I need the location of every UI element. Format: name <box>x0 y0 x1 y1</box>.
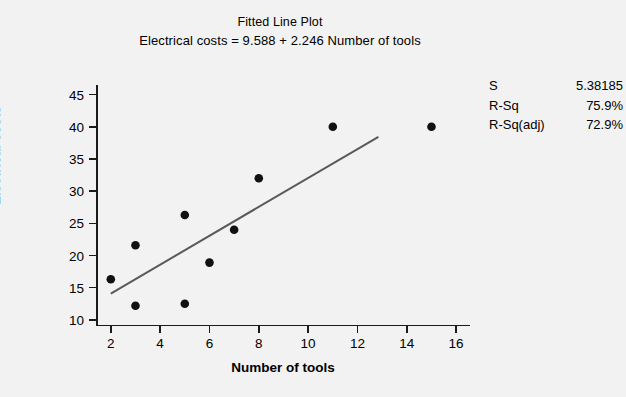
data-point-marker <box>181 211 190 220</box>
stat-row-s: S 5.38185 <box>489 76 623 96</box>
y-axis-title: Electrical costs <box>0 106 3 205</box>
statistics-box: S 5.38185 R-Sq 75.9% R-Sq(adj) 72.9% <box>489 76 623 135</box>
x-tick-label: 16 <box>441 336 471 351</box>
y-tick-label: 40 <box>54 119 84 134</box>
data-point-marker <box>107 275 116 284</box>
y-tick-mark <box>89 223 96 225</box>
y-tick-label: 15 <box>54 280 84 295</box>
y-tick-label: 30 <box>54 184 84 199</box>
y-tick-label: 25 <box>54 216 84 231</box>
y-tick-label: 45 <box>54 87 84 102</box>
x-tick-label: 10 <box>293 336 323 351</box>
y-tick-label: 10 <box>54 312 84 327</box>
x-axis-title: Number of tools <box>96 360 470 375</box>
y-tick-label: 20 <box>54 248 84 263</box>
y-axis-line <box>96 85 98 326</box>
x-tick-label: 6 <box>194 336 224 351</box>
x-tick-mark <box>209 326 211 333</box>
data-point-marker <box>131 241 140 250</box>
stat-row-rsq-adj: R-Sq(adj) 72.9% <box>489 115 623 135</box>
y-tick-mark <box>89 158 96 160</box>
stat-label-rsq-adj: R-Sq(adj) <box>489 115 561 135</box>
stat-value-s: 5.38185 <box>561 76 623 96</box>
x-tick-mark <box>406 326 408 333</box>
y-tick-mark <box>89 94 96 96</box>
chart-title-block: Fitted Line Plot Electrical costs = 9.58… <box>0 14 560 50</box>
x-tick-mark <box>258 326 260 333</box>
regression-line <box>111 137 379 294</box>
x-tick-mark <box>455 326 457 333</box>
x-tick-mark <box>307 326 309 333</box>
chart-subtitle-equation: Electrical costs = 9.588 + 2.246 Number … <box>0 31 560 50</box>
x-tick-mark <box>357 326 359 333</box>
stat-label-s: S <box>489 76 561 96</box>
x-tick-label: 4 <box>145 336 175 351</box>
data-points <box>107 123 436 310</box>
stat-value-rsq-adj: 72.9% <box>561 115 623 135</box>
stat-value-rsq: 75.9% <box>561 96 623 116</box>
y-tick-mark <box>89 255 96 257</box>
data-point-marker <box>329 123 338 132</box>
stat-row-rsq: R-Sq 75.9% <box>489 96 623 116</box>
x-tick-label: 2 <box>96 336 126 351</box>
x-tick-mark <box>110 326 112 333</box>
data-point-marker <box>131 301 140 310</box>
x-tick-label: 14 <box>392 336 422 351</box>
y-tick-label: 35 <box>54 151 84 166</box>
data-point-marker <box>230 225 239 234</box>
y-tick-mark <box>89 319 96 321</box>
x-axis-line <box>96 325 470 327</box>
data-point-marker <box>427 123 436 132</box>
x-tick-label: 8 <box>244 336 274 351</box>
y-tick-mark <box>89 190 96 192</box>
chart-title: Fitted Line Plot <box>0 14 560 31</box>
data-point-marker <box>181 299 190 308</box>
stat-label-rsq: R-Sq <box>489 96 561 116</box>
y-tick-mark <box>89 287 96 289</box>
y-tick-mark <box>89 126 96 128</box>
fitted-line-plot: Fitted Line Plot Electrical costs = 9.58… <box>0 0 626 397</box>
x-tick-label: 12 <box>342 336 372 351</box>
fit-line-segment <box>111 137 379 294</box>
x-tick-mark <box>159 326 161 333</box>
data-point-marker <box>254 174 263 183</box>
data-point-marker <box>205 258 214 267</box>
